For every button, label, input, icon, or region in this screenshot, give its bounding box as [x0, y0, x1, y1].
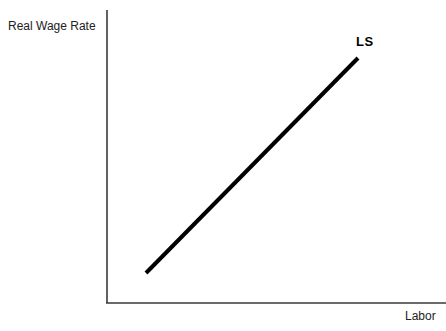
- labor-supply-curve-label: LS: [356, 34, 374, 49]
- labor-supply-chart: Real Wage Rate Labor LS: [0, 0, 446, 331]
- y-axis-label: Real Wage Rate: [8, 19, 96, 33]
- labor-supply-curve: [146, 58, 358, 273]
- x-axis-label: Labor: [405, 309, 436, 323]
- chart-plot-area: [0, 0, 446, 331]
